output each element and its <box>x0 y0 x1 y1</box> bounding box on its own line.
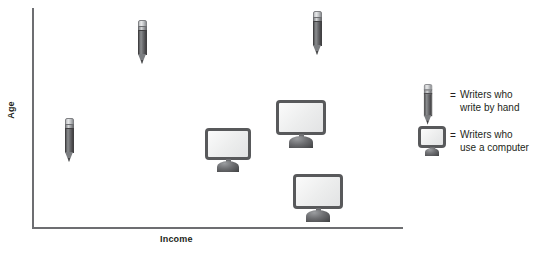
legend-equals-sign-computer: = <box>450 130 456 141</box>
y-axis-line <box>32 8 34 229</box>
pencil-marker-3 <box>312 11 323 55</box>
pencil-lead-part <box>68 158 70 162</box>
pencil-body-part <box>313 21 322 46</box>
x-axis-line <box>32 227 403 229</box>
x-axis-label: Income <box>160 234 193 244</box>
pencil-marker-2 <box>137 20 148 64</box>
monitor-screen-part <box>293 174 343 209</box>
legend-label-handwriting: Writers who write by hand <box>460 88 519 114</box>
chart-canvas: Age Income = Writers who write by hand <box>0 0 542 254</box>
monitor-screen-part <box>418 126 446 148</box>
pencil-lead-part <box>316 51 318 55</box>
monitor-marker-3 <box>293 174 343 222</box>
legend-row-computer: = Writers who use a computer <box>418 126 542 166</box>
pencil-marker-1 <box>64 118 75 162</box>
monitor-screen-part <box>276 100 326 135</box>
pencil-body-part <box>138 30 147 55</box>
monitor-base-part <box>306 210 330 222</box>
y-axis-label: Age <box>6 90 16 130</box>
pencil-body-part <box>65 128 74 153</box>
legend-row-handwriting: = Writers who write by hand <box>418 86 542 126</box>
pencil-lead-part <box>427 121 429 125</box>
monitor-screen-part <box>205 128 251 160</box>
monitor-marker-1 <box>205 128 251 172</box>
monitor-marker-2 <box>276 100 326 148</box>
pencil-lead-part <box>141 60 143 64</box>
legend-key-computer <box>418 126 448 162</box>
legend-label-computer: Writers who use a computer <box>460 128 529 154</box>
monitor-base-part <box>289 136 313 148</box>
monitor-base-part <box>425 148 438 156</box>
pencil-icon <box>423 84 433 124</box>
chart-legend: = Writers who write by hand = Writers wh… <box>418 86 542 166</box>
legend-key-handwriting <box>418 86 448 122</box>
legend-equals-sign-handwriting: = <box>450 90 456 101</box>
monitor-icon <box>418 126 446 156</box>
pencil-body-part <box>424 93 432 116</box>
monitor-base-part <box>217 161 239 172</box>
